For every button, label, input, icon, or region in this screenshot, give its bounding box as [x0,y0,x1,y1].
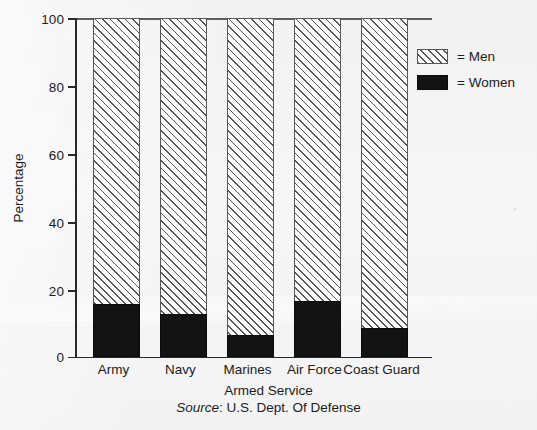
x-tick-label-coast-guard: Coast Guard [335,362,428,377]
bar-segment-men [361,18,408,357]
bar-group [294,18,341,357]
legend-label-women: = Women [457,72,515,93]
legend-item-women: = Women [417,72,532,98]
y-tick-0: 0 [68,357,76,359]
bar-segment-women [294,301,341,357]
x-axis-title: Armed Service [0,383,537,398]
y-tick-label: 60 [49,147,64,162]
bar-segment-men [160,18,207,357]
legend-swatch-women-icon [417,75,448,90]
y-tick-label: 80 [49,79,64,94]
y-tick-100: 100 [68,18,76,20]
y-tick-label: 40 [49,215,64,230]
chart-figure: 100 80 60 40 20 0 [0,0,537,430]
legend-swatch-men-icon [417,49,448,64]
legend: = Men = Women [417,46,532,98]
plot-area: 100 80 60 40 20 0 [75,18,432,358]
bar-segment-men [227,18,274,357]
bar-segment-women [227,335,274,357]
source-caption: Source: U.S. Dept. Of Defense [0,400,537,415]
x-axis-line [75,357,432,359]
legend-item-men: = Men [417,46,532,72]
scan-speck [514,208,516,210]
y-tick-40: 40 [68,222,76,224]
legend-label-men: = Men [457,46,495,67]
bar-group [227,18,274,357]
bar-group [93,18,140,357]
y-tick-20: 20 [68,290,76,292]
y-tick-label: 0 [56,350,64,365]
source-value: U.S. Dept. Of Defense [226,400,360,415]
bar-segment-women [361,328,408,357]
source-prefix: Source [176,400,219,415]
bar-group [160,18,207,357]
y-tick-60: 60 [68,154,76,156]
bar-segment-women [93,304,140,356]
bar-group [361,18,408,357]
y-axis-line [75,18,77,358]
y-tick-80: 80 [68,86,76,88]
y-tick-label: 100 [41,11,64,26]
y-axis-title: Percentage [11,153,26,222]
bar-segment-women [160,314,207,356]
y-tick-label: 20 [49,283,64,298]
